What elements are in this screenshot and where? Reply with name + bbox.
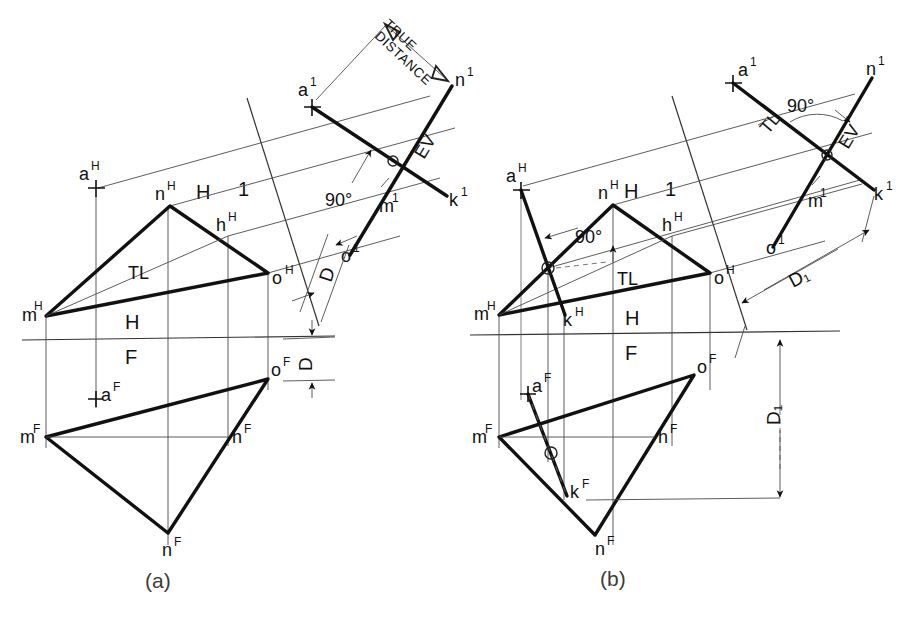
label-h-top-sup-b: H <box>674 210 683 224</box>
label-a-aux-sup-a: 1 <box>310 75 317 89</box>
label-k-aux-a: k <box>449 190 459 210</box>
label-k-aux-b: k <box>874 184 884 204</box>
label-h-top-b: h <box>662 215 672 235</box>
fold-label-f-a: F <box>125 346 137 368</box>
label-o-aux-sup-b: 1 <box>778 233 785 247</box>
label-a-front-sup-b: F <box>544 371 551 385</box>
label-a-top-b: a <box>506 166 517 186</box>
caption-b: (b) <box>600 567 626 590</box>
label-m-top-sup-b: H <box>487 299 496 313</box>
canvas-background <box>0 0 906 618</box>
label-h-top-sup-a: H <box>228 210 237 224</box>
label-d1-front-b: D₁ <box>763 405 784 425</box>
label-a-top-sup-a: H <box>91 159 100 173</box>
label-n-front-sup-a: F <box>174 535 181 549</box>
fold-label-h1-h-a: H <box>196 181 210 203</box>
label-h-front-a: h <box>232 427 242 447</box>
label-n-top-sup-b: H <box>610 178 619 192</box>
label-m-front-sup-b: F <box>485 422 492 436</box>
label-m-aux-sup-a: 1 <box>392 191 399 205</box>
label-a-aux-a: a <box>298 80 309 100</box>
label-n-aux-sup-b: 1 <box>878 54 885 68</box>
label-n-aux-sup-a: 1 <box>467 65 474 79</box>
label-m-front-sup-a: F <box>33 422 40 436</box>
label-h-front-b: h <box>658 427 668 447</box>
label-k-aux-sup-a: 1 <box>461 185 468 199</box>
label-n-aux-a: n <box>455 70 465 90</box>
label-d-front-a: D <box>295 357 316 371</box>
label-h-top-a: h <box>216 215 226 235</box>
label-a-front-b: a <box>532 376 543 396</box>
fold-label-h-b: H <box>625 307 639 329</box>
label-k-front-sup-b: F <box>582 477 589 491</box>
label-k-top-b: k <box>563 310 573 330</box>
label-o-aux-b: o <box>766 238 776 258</box>
label-a-top-sup-b: H <box>518 161 527 175</box>
label-a-aux-sup-b: 1 <box>750 55 757 69</box>
label-o-top-a: o <box>272 268 282 288</box>
label-k-front-b: k <box>570 482 580 502</box>
label-m-aux-sup-b: 1 <box>820 186 827 200</box>
label-o-front-a: o <box>271 360 281 380</box>
label-o-top-sup-a: H <box>285 263 294 277</box>
label-90-aux-b: 90° <box>787 96 814 116</box>
label-h-front-sup-a: F <box>244 422 251 436</box>
fold-label-f-b: F <box>625 342 637 364</box>
label-o-top-b: o <box>714 268 724 288</box>
label-90-top-b: 90° <box>575 227 602 247</box>
label-n-front-b: n <box>595 539 605 559</box>
label-k-aux-sup-b: 1 <box>886 179 893 193</box>
label-a-aux-b: a <box>738 60 749 80</box>
label-tl-top-a: TL <box>128 263 149 283</box>
label-o-front-b: o <box>697 357 707 377</box>
label-a-front-a: a <box>101 385 112 405</box>
label-k-top-sup-b: H <box>575 305 584 319</box>
caption-a: (a) <box>145 569 171 592</box>
label-h-front-sup-b: F <box>670 422 677 436</box>
descriptive-geometry-figure: H F H 1 TL <box>0 0 906 618</box>
label-a-top-a: a <box>79 164 90 184</box>
label-o-front-sup-b: F <box>709 352 716 366</box>
label-n-top-sup-a: H <box>167 179 176 193</box>
label-n-front-sup-b: F <box>607 534 614 548</box>
label-o-top-sup-b: H <box>726 263 735 277</box>
label-n-front-a: n <box>162 540 172 560</box>
label-o-front-sup-a: F <box>283 355 290 369</box>
label-m-top-sup-a: H <box>34 299 43 313</box>
label-n-top-a: n <box>155 184 165 204</box>
label-90-a: 90° <box>325 190 352 210</box>
label-a-front-sup-a: F <box>113 380 120 394</box>
fold-label-h1-1-a: 1 <box>238 178 249 200</box>
label-n-top-b: n <box>598 183 608 203</box>
label-n-aux-b: n <box>866 59 876 79</box>
label-tl-top-b: TL <box>617 269 638 289</box>
label-o-aux-sup-a: 1 <box>353 241 360 255</box>
fold-label-h-a: H <box>125 311 139 333</box>
